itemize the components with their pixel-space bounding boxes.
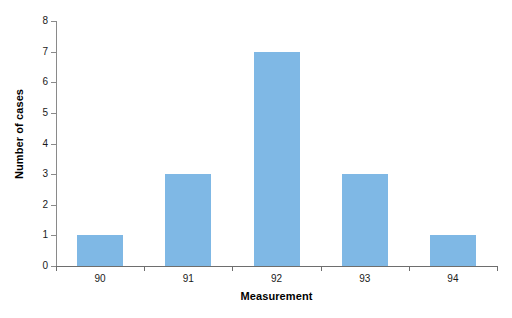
plot-area: 012345678 (56, 21, 497, 266)
y-axis-title-text: Number of cases (13, 89, 25, 179)
x-axis-tick-mark (56, 266, 57, 271)
bars-group (56, 21, 497, 266)
y-axis-tick-label: 4 (42, 136, 48, 152)
x-axis-tick-mark (321, 266, 322, 271)
x-axis-tick-mark (497, 266, 498, 271)
y-axis-tick-label: 2 (42, 197, 48, 213)
x-axis-line (56, 266, 497, 267)
x-axis-tick-mark (144, 266, 145, 271)
x-axis-tick-label: 91 (183, 273, 194, 284)
x-axis-tick-label: 90 (95, 273, 106, 284)
x-axis-tick-label: 94 (447, 273, 458, 284)
x-axis-tick-label: 93 (359, 273, 370, 284)
y-axis-tick-label: 0 (42, 258, 48, 274)
bar (254, 52, 300, 266)
y-axis-tick-label: 1 (42, 227, 48, 243)
y-axis-tick-label: 6 (42, 74, 48, 90)
y-axis-tick-label: 3 (42, 166, 48, 182)
bar (430, 235, 476, 266)
x-axis-title: Measurement (56, 290, 497, 302)
x-axis-tick-mark (232, 266, 233, 271)
x-axis-tick-mark (409, 266, 410, 271)
bar (165, 174, 211, 266)
bar (342, 174, 388, 266)
y-axis-tick-label: 8 (42, 13, 48, 29)
y-axis-title: Number of cases (8, 0, 30, 268)
y-axis-tick-label: 7 (42, 44, 48, 60)
x-axis-tick-label: 92 (271, 273, 282, 284)
bar-chart: Number of cases 012345678 9091929394 Mea… (0, 0, 512, 318)
y-axis-tick-label: 5 (42, 105, 48, 121)
bar (77, 235, 123, 266)
